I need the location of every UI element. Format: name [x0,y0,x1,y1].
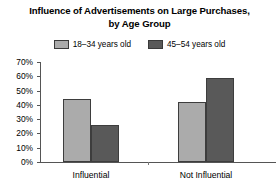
bar [206,78,234,162]
x-axis-line [40,162,276,163]
y-axis-tick [37,162,40,163]
y-axis-tick-label: 0% [0,158,33,166]
bar [63,99,91,162]
chart-title-line-1: Influence of Advertisements on Large Pur… [29,5,249,16]
y-axis-line [40,62,41,163]
plot-area [40,62,276,162]
legend-swatch-18-34 [54,40,69,49]
y-axis-tick [37,76,40,77]
y-axis-tick-label: 30% [0,115,33,123]
legend-swatch-45-54 [148,40,163,49]
legend-label-18-34: 18–34 years old [73,40,131,49]
y-axis-tick [37,91,40,92]
y-axis-tick-label: 10% [0,144,33,152]
x-axis-category-label: Influential [31,170,151,180]
bar [178,102,206,162]
y-axis-tick-label: 50% [0,87,33,95]
y-axis-tick-label: 20% [0,129,33,137]
y-axis-tick-label: 60% [0,72,33,80]
chart-legend: 18–34 years old 45–54 years old [0,40,279,49]
x-axis-category-divider-tick [148,162,149,165]
y-axis-tick [37,119,40,120]
chart-title: Influence of Advertisements on Large Pur… [0,5,279,30]
y-axis-tick [37,133,40,134]
bar-chart: Influence of Advertisements on Large Pur… [0,0,279,189]
chart-title-line-2: by Age Group [0,18,279,31]
y-axis-tick [37,62,40,63]
x-axis-category-label: Not Influential [146,170,266,180]
y-axis-tick [37,105,40,106]
legend-item-18-34: 18–34 years old [54,40,131,49]
y-axis-tick-label: 40% [0,101,33,109]
legend-label-45-54: 45–54 years old [167,40,225,49]
legend-item-45-54: 45–54 years old [148,40,225,49]
bar [91,125,119,162]
y-axis-tick-label: 70% [0,58,33,66]
y-axis-tick [37,148,40,149]
